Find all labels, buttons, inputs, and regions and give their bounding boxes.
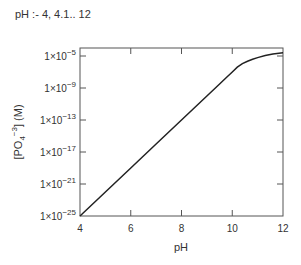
y-tick-label: 1×10−17: [40, 144, 77, 158]
chart: 4681012 1×10−51×10−91×10−131×10−171×10−2…: [0, 0, 301, 265]
y-tick-label: 1×10−5: [44, 48, 76, 62]
plot-area: [80, 48, 283, 216]
y-axis-label: [PO4−3] (M): [10, 104, 27, 159]
x-axis: 4681012: [77, 48, 289, 234]
x-tick-label: 4: [77, 223, 83, 234]
y-tick-label: 1×10−9: [44, 80, 76, 94]
y-axis: 1×10−51×10−91×10−131×10−171×10−211×10−25: [40, 48, 283, 222]
x-tick-label: 12: [277, 223, 289, 234]
y-tick-label: 1×10−25: [40, 208, 77, 222]
y-tick-label: 1×10−13: [40, 112, 77, 126]
y-tick-label: 1×10−21: [40, 176, 77, 190]
x-axis-label: pH: [174, 241, 188, 253]
x-tick-label: 8: [179, 223, 185, 234]
x-tick-label: 10: [227, 223, 239, 234]
x-tick-label: 6: [128, 223, 134, 234]
data-line: [80, 53, 283, 216]
